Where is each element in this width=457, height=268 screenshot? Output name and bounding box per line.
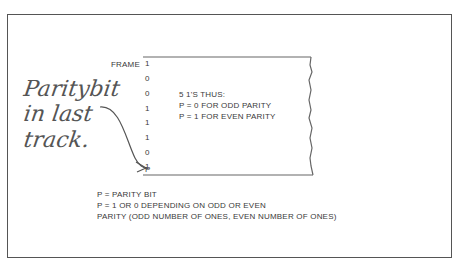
count-note: 5 1'S THUS: bbox=[179, 90, 225, 99]
rule-even: P = 1 FOR EVEN PARITY bbox=[179, 112, 276, 121]
bit-6: 0 bbox=[145, 148, 150, 157]
rule-odd: P = 0 FOR ODD PARITY bbox=[179, 101, 271, 110]
bit-parity: P bbox=[145, 165, 151, 174]
legend-line-1: P = PARITY BIT bbox=[97, 190, 157, 199]
bit-3: 1 bbox=[145, 104, 150, 113]
bit-0: 1 bbox=[145, 59, 150, 68]
handwritten-line-2: in last bbox=[22, 103, 94, 125]
bit-1: 0 bbox=[145, 74, 150, 83]
frame-label: FRAME bbox=[111, 60, 140, 69]
torn-edge-icon bbox=[309, 57, 313, 175]
handwritten-line-1: Paritybit bbox=[22, 78, 121, 100]
bit-4: 1 bbox=[145, 118, 150, 127]
arrow-icon bbox=[100, 107, 146, 168]
handwritten-line-3: track. bbox=[22, 129, 90, 151]
legend-line-2: P = 1 OR 0 DEPENDING ON ODD OR EVEN bbox=[97, 201, 266, 210]
legend-line-3: PARITY (ODD NUMBER OF ONES, EVEN NUMBER … bbox=[97, 212, 337, 221]
bit-5: 1 bbox=[145, 133, 150, 142]
bit-2: 0 bbox=[145, 89, 150, 98]
